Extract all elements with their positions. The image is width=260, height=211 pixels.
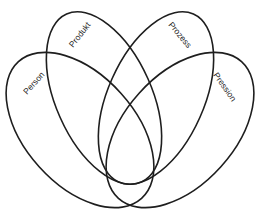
ellipse-pression <box>78 25 260 211</box>
label-pression: Pression <box>211 70 238 103</box>
label-person: Person <box>21 69 47 96</box>
ellipse-person <box>0 25 182 211</box>
label-produkt: Produkt <box>67 19 93 49</box>
venn-svg: Person Produkt Prozess Pression <box>0 0 260 211</box>
label-prozess: Prozess <box>166 20 193 50</box>
venn-diagram: Person Produkt Prozess Pression <box>0 0 260 211</box>
